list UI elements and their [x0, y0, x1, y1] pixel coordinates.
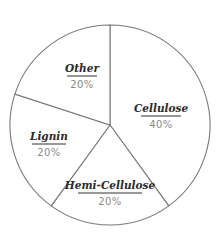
slice-label-value: 20% [37, 147, 61, 158]
pie-slices [10, 25, 210, 225]
slice-label-value: 20% [98, 196, 122, 207]
slice-label-name: Other [65, 62, 100, 74]
slice-label-value: 20% [70, 79, 94, 90]
slice-label-name: Cellulose [134, 102, 189, 114]
slice-label-name: Hemi-Cellulose [64, 179, 156, 191]
slice-label-value: 40% [149, 119, 173, 130]
slice-label-name: Lignin [29, 130, 68, 142]
pie-chart: Cellulose40%Hemi-Cellulose20%Lignin20%Ot… [0, 0, 220, 241]
